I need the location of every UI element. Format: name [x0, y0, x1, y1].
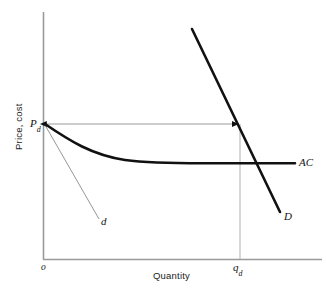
- origin-label: o: [41, 263, 46, 273]
- chart-canvas: [0, 0, 326, 292]
- x-axis-title: Quantity: [153, 271, 190, 281]
- market-demand-curve: [192, 29, 280, 212]
- y-axis-title: Price, cost: [14, 103, 24, 150]
- quantity-axis-label: qd: [233, 262, 242, 276]
- firm-demand-curve: [45, 125, 99, 219]
- price-axis-label: Pd: [30, 118, 41, 132]
- economics-diagram: Pd qd o AC D d Price, cost Quantity: [0, 0, 326, 292]
- average-cost-curve: [45, 124, 295, 163]
- average-cost-label: AC: [299, 157, 313, 168]
- market-demand-label: D: [284, 211, 292, 222]
- firm-demand-label: d: [101, 216, 107, 227]
